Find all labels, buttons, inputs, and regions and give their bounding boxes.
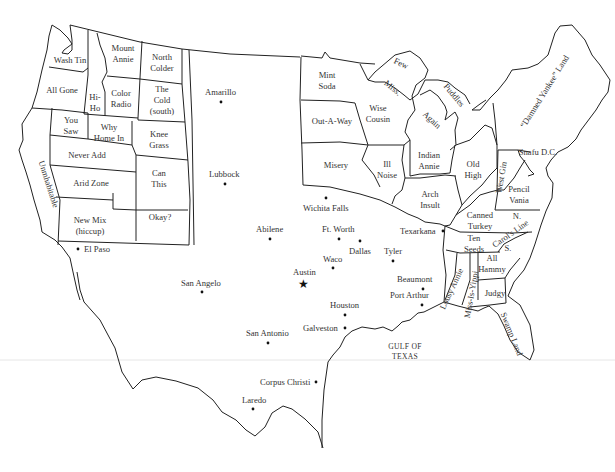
indian-arch	[445, 176, 462, 226]
city-dot-dallas	[359, 240, 362, 243]
region-label-damned-yankee-land: “Damned Yankee” Land	[518, 53, 571, 130]
canthis-bottom	[113, 193, 188, 210]
region-label-never-add: Never Add	[68, 150, 106, 160]
wash-allgone-border	[49, 67, 88, 72]
region-label-arch-insult-1: Arch	[421, 189, 439, 199]
city-label-waco: Waco	[323, 254, 342, 264]
region-label-the-cold-south-2: Cold	[154, 95, 171, 105]
city-dot-houston	[344, 314, 347, 317]
region-label-indian-annie-2: Annie	[418, 161, 439, 171]
region-label-knee-grass-1: Knee	[150, 129, 168, 139]
city-label-el-paso: El Paso	[84, 244, 110, 254]
aridzone-bottom	[56, 197, 113, 200]
region-label-mint-soda-2: Soda	[318, 81, 335, 91]
region-label-all-hammy-2: Hammy	[478, 264, 506, 274]
region-label-arch-insult-2: Insult	[420, 200, 440, 210]
thecold-east	[182, 84, 190, 245]
city-label-lubbock: Lubbock	[209, 169, 240, 179]
region-label-swamp-land: Swamp Land	[499, 311, 526, 358]
city-label-abilene: Abilene	[256, 224, 283, 234]
city-label-dallas: Dallas	[349, 246, 372, 256]
capital-star-icon: ★	[298, 277, 309, 291]
city-label-ft-worth: Ft. Worth	[322, 224, 355, 234]
region-label-wise-cousin-1: Wise	[369, 103, 386, 113]
newmix-bottom	[58, 241, 189, 245]
city-dot-corpus-christi	[315, 381, 318, 384]
city-dot-waco	[332, 267, 335, 270]
region-label-wise-cousin-2: Cousin	[366, 114, 391, 124]
city-dot-san-antonio	[267, 342, 270, 345]
region-label-wash-tin: Wash Tin	[54, 55, 87, 65]
allgone-south	[32, 108, 88, 113]
region-label-pencil-vania-1: Pencil	[508, 184, 530, 194]
city-dot-san-angelo	[201, 291, 204, 294]
wash-east	[84, 30, 88, 114]
city-dot-el-paso	[77, 248, 80, 251]
city-label-amarillo: Amarillo	[205, 87, 236, 97]
region-label-snafu-dc: Snafu D.C.	[519, 147, 557, 157]
region-label-canned-turkey-2: Turkey	[468, 221, 493, 231]
region-label-ten-seeds-2: Seeds	[464, 244, 485, 254]
canthis-top	[136, 155, 188, 160]
region-label-why-home-in-2: Home In	[94, 133, 125, 143]
oklahoma-panhandle	[300, 57, 303, 185]
city-dot-galveston	[344, 327, 347, 330]
region-label-west-gin: West Gin	[493, 160, 509, 194]
city-dot-lubbock	[224, 183, 227, 186]
region-label-the-cold-south-1: The	[155, 84, 169, 94]
map-borders	[19, 25, 610, 448]
gulf-label-line1: GULF OF	[388, 342, 422, 351]
mintsoda-top	[301, 52, 375, 64]
region-label-hi-ho-2: Ho	[90, 103, 101, 113]
region-label-you-saw-1: You	[64, 115, 79, 125]
city-dot-ft-worth	[338, 238, 341, 241]
region-label-all-gone: All Gone	[46, 85, 78, 95]
region-label-ill-noise-1: Ill	[383, 159, 391, 169]
city-label-wichita-falls: Wichita Falls	[303, 203, 349, 213]
city-label-texarkana: Texarkana	[400, 226, 436, 236]
region-label-out-a-way: Out-A-Way	[312, 116, 353, 126]
region-label-hi-ho-1: Hi-	[89, 92, 101, 102]
region-label-again: Again	[421, 109, 444, 131]
region-label-mint-soda-1: Mint	[319, 70, 336, 80]
texan-us-map: Wash TinAll GoneHi-HoMountAnnieNorthCold…	[0, 0, 615, 472]
city-label-austin: Austin	[293, 267, 317, 277]
region-label-misery: Misery	[324, 160, 349, 170]
city-label-laredo: Laredo	[242, 395, 266, 405]
city-label-san-angelo: San Angelo	[181, 278, 221, 288]
region-label-mount-annie-1: Mount	[112, 43, 136, 53]
region-label-puddles: Puddles	[442, 81, 468, 109]
city-label-galveston: Galveston	[303, 323, 339, 333]
city-dot-port-arthur	[421, 304, 424, 307]
region-label-can-this-2: This	[151, 179, 167, 189]
region-label-you-saw-2: Saw	[64, 126, 80, 136]
northern-border-west	[70, 25, 300, 57]
region-label-ten-seeds-1: Ten	[468, 233, 481, 243]
region-label-north-colder-1: North	[152, 52, 173, 62]
knee-west	[132, 121, 136, 210]
region-label-color-radio-1: Color	[111, 88, 131, 98]
region-label-ill-noise-2: Noise	[377, 170, 397, 180]
region-label-indian-annie-1: Indian	[418, 150, 441, 160]
region-label-unmhabitable: Unmhabitable	[37, 159, 62, 209]
city-label-tyler: Tyler	[384, 246, 402, 256]
region-label-can-this-1: Can	[152, 168, 167, 178]
region-label-old-high-2: High	[464, 170, 482, 180]
region-label-miss: Miss.	[382, 78, 403, 98]
city-label-beaumont: Beaumont	[397, 274, 433, 284]
puget-sound	[52, 25, 72, 54]
region-label-knee-grass-2: Grass	[149, 140, 169, 150]
city-dot-abilene	[269, 238, 272, 241]
region-label-new-mix-2: (hiccup)	[76, 226, 105, 236]
region-label-judgy: Judgy	[485, 288, 506, 298]
city-dot-laredo	[252, 408, 255, 411]
region-label-old-high-1: Old	[467, 159, 481, 169]
region-label-miss-is-yippi: Miss-Is-Yippi	[462, 269, 480, 318]
city-dot-texarkana	[442, 230, 445, 233]
gulf-label-line2: TEXAS	[392, 352, 418, 361]
colorradio-top	[107, 76, 182, 84]
outaway-bottom	[301, 142, 368, 145]
region-label-all-hammy-1: All	[487, 253, 499, 263]
region-label-north-colder-2: Colder	[150, 63, 174, 73]
region-label-the-cold-south-3: (south)	[150, 106, 174, 116]
